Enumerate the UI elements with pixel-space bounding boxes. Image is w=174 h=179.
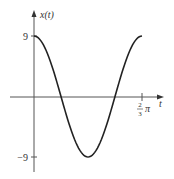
chart: 9−923πtx(t) xyxy=(0,0,174,179)
y-axis-label: x(t) xyxy=(39,9,55,21)
axes xyxy=(10,10,164,172)
x-tick-label-numerator: 2 xyxy=(138,101,142,109)
y-axis-arrow xyxy=(32,10,37,17)
x-tick-label-suffix: π xyxy=(145,103,151,114)
x-axis-label: t xyxy=(159,98,162,109)
x-tick-label-denominator: 3 xyxy=(138,110,142,118)
y-tick-label: −9 xyxy=(17,152,28,163)
y-tick-label: 9 xyxy=(23,31,28,42)
labels: 9−923πtx(t) xyxy=(17,9,162,163)
